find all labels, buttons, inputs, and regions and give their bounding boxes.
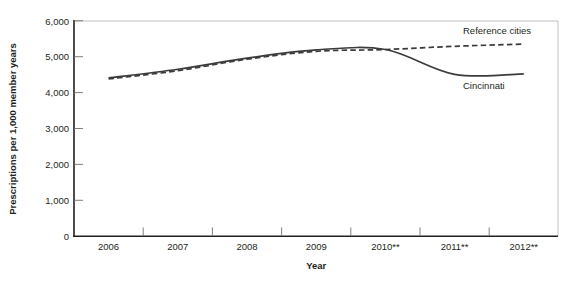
reference-cities-label: Reference cities [463,25,531,36]
series-group [109,44,524,79]
y-tick-label: 2,000 [45,159,69,170]
y-tick-label: 3,000 [45,123,69,134]
y-tick-label: 0 [64,231,69,242]
x-tick-label: 2011** [441,241,469,252]
x-tick-label: 2010** [371,241,400,252]
y-axis-title: Prescriptions per 1,000 member years [7,43,18,215]
line-chart: 6,000 5,000 4,000 3,000 2,000 1,000 0 20… [0,0,588,281]
y-axis-ticks [74,21,83,201]
x-tick-label: 2008 [236,241,257,252]
x-axis-title: Year [306,260,326,271]
x-axis-tick-labels: 2006 2007 2008 2009 2010** 2011** 2012** [98,241,538,252]
y-tick-label: 4,000 [45,87,69,98]
chart-figure: 6,000 5,000 4,000 3,000 2,000 1,000 0 20… [0,0,588,281]
cincinnati-label: Cincinnati [463,80,505,91]
x-axis-ticks [143,228,489,237]
y-tick-label: 1,000 [45,195,69,206]
y-tick-label: 6,000 [45,16,69,27]
x-tick-label: 2009 [306,241,327,252]
x-tick-label: 2006 [98,241,119,252]
x-tick-label: 2007 [167,241,188,252]
y-axis-tick-labels: 6,000 5,000 4,000 3,000 2,000 1,000 0 [45,16,69,242]
x-tick-label: 2012** [510,241,539,252]
y-tick-label: 5,000 [45,51,69,62]
